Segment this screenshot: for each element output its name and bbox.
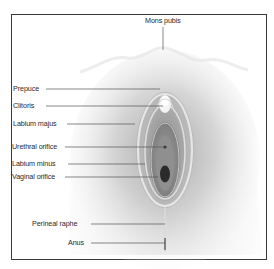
urethral-orifice-shape [163,145,166,148]
label-mons-pubis: Mons pubis [145,17,181,24]
vaginal-orifice-shape [160,166,170,183]
label-urethral-orifice: Urethral orifice [12,143,57,150]
label-vaginal-orifice: Vaginal orifice [12,173,55,180]
label-perineal-raphe: Perineal raphe [32,220,77,227]
label-labium-minus: Labium minus [12,160,56,167]
label-prepuce: Prepuce [13,85,39,92]
label-clitoris: Clitoris [13,102,34,109]
label-labium-majus: Labium majus [13,120,57,127]
label-anus: Anus [68,239,84,246]
vulva-illustration [0,0,274,269]
vestibule [156,135,174,191]
diagram-canvas: Mons pubis Prepuce Clitoris Labium majus… [0,0,274,269]
